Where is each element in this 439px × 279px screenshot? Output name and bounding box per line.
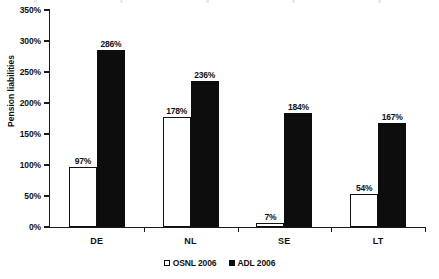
legend-label: OSNL 2006 — [173, 258, 217, 268]
y-axis-tick-label: 200% — [0, 99, 41, 108]
chart-legend: OSNL 2006ADL 2006 — [0, 258, 439, 268]
y-axis-tick-label: 100% — [0, 161, 41, 170]
bar-nl-adl — [191, 81, 219, 227]
legend-item-osnl-2006[interactable]: OSNL 2006 — [164, 258, 217, 268]
x-axis-label-se: SE — [254, 236, 314, 246]
bar-se-adl — [284, 113, 312, 227]
y-axis-tick-label: 150% — [0, 130, 41, 139]
x-axis-tick — [425, 227, 426, 232]
bar-de-adl — [97, 50, 125, 227]
bar-lt-osnl — [350, 194, 378, 227]
bar-value-label: 167% — [370, 112, 414, 122]
legend-swatch-icon — [229, 260, 235, 266]
legend-label: ADL 2006 — [238, 258, 276, 268]
bar-nl-osnl — [163, 117, 191, 227]
bar-lt-adl — [378, 123, 406, 227]
legend-item-adl-2006[interactable]: ADL 2006 — [229, 258, 276, 268]
bar-se-osnl — [256, 223, 284, 227]
x-axis-label-lt: LT — [348, 236, 408, 246]
y-axis-tick-label: 50% — [0, 192, 41, 201]
x-axis-tick — [331, 227, 332, 232]
bar-chart: Pension liabilities 0%50%100%150%200%250… — [0, 0, 439, 279]
x-axis-tick — [238, 227, 239, 232]
y-axis-tick-label: 0% — [0, 223, 41, 232]
bar-de-osnl — [69, 167, 97, 227]
y-axis-tick-label: 300% — [0, 37, 41, 46]
scan-artifact — [0, 0, 439, 3]
x-axis-label-nl: NL — [161, 236, 221, 246]
bar-value-label: 286% — [89, 39, 133, 49]
y-axis-tick-label: 350% — [0, 6, 41, 15]
x-axis-tick — [144, 227, 145, 232]
y-axis-tick-label: 250% — [0, 68, 41, 77]
x-axis-label-de: DE — [67, 236, 127, 246]
bar-value-label: 236% — [183, 70, 227, 80]
legend-swatch-icon — [164, 260, 170, 266]
bar-value-label: 184% — [276, 102, 320, 112]
plot-area: 97%286%178%236%7%184%54%167% — [50, 10, 425, 227]
